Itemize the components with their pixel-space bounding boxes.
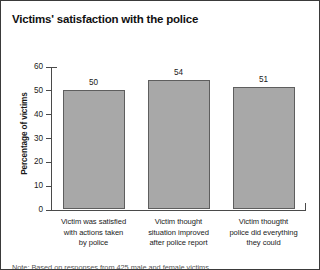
axis-top-tick [51,67,57,68]
chart-figure: Victims' satisfaction with the police Pe… [0,0,320,270]
x-category-label-line: Victim thougtht [221,217,306,228]
bar[interactable] [233,87,295,209]
y-tick-label: 30 [21,134,43,144]
bar-value-label: 50 [63,78,125,88]
x-category-label-line: they could [221,238,306,249]
x-category-label-line: with actions taken [51,228,136,239]
plot-area: 0102030405060 505451 [51,67,306,210]
x-category-label: Victim was satisfiedwith actions takenby… [51,217,136,249]
x-category-label-line: Victim thought [136,217,221,228]
y-tick-label: 50 [21,86,43,96]
y-tick: 30 [21,134,51,144]
bar-group[interactable]: 50 [63,76,125,209]
y-tick: 60 [21,62,51,72]
x-category-label: Victim thougthtpolice did everythingthey… [221,217,306,249]
y-axis-line [51,67,52,211]
x-category-label-line: police did everything [221,228,306,239]
bar[interactable] [148,80,210,209]
y-tick: 20 [21,157,51,167]
y-tick: 0 [21,205,51,215]
bar[interactable] [63,90,125,209]
y-tick: 50 [21,86,51,96]
x-axis-line [51,210,306,211]
axis-right-tick [305,203,306,211]
x-category-label: Victim thoughtsituation improvedafter po… [136,217,221,249]
y-tick-mark [46,67,51,68]
x-category-label-line: Victim was satisfied [51,217,136,228]
plot-wrapper: Percentage of victims 0102030405060 5054… [1,1,320,270]
y-tick-mark [46,186,51,187]
x-category-label-line: by police [51,238,136,249]
bar-group[interactable]: 54 [148,66,210,209]
y-tick-label: 10 [21,181,43,191]
y-tick-mark [46,162,51,163]
y-tick-mark [46,114,51,115]
y-tick: 40 [21,110,51,120]
y-tick-mark [46,210,51,211]
bar-value-label: 54 [148,68,210,78]
y-tick-mark [46,138,51,139]
x-category-label-line: situation improved [136,228,221,239]
y-tick-label: 0 [21,205,43,215]
bar-group[interactable]: 51 [233,73,295,209]
y-tick-label: 20 [21,157,43,167]
x-category-label-line: after police report [136,238,221,249]
y-tick-mark [46,90,51,91]
bar-value-label: 51 [233,75,295,85]
y-tick-label: 40 [21,110,43,120]
y-tick: 10 [21,181,51,191]
y-tick-label: 60 [21,62,43,72]
footnote-divider [11,257,311,258]
footnote-note: Note: Based on responses from 425 male a… [12,263,209,270]
